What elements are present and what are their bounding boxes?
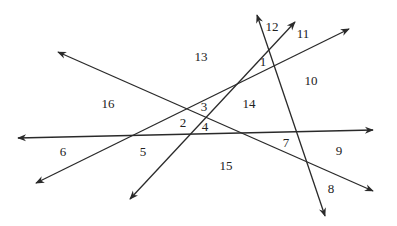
diagram-canvas: 12345678910111213141516 bbox=[0, 0, 397, 226]
line-a-double-arrow bbox=[18, 130, 373, 138]
region-label-15: 15 bbox=[220, 158, 233, 173]
region-label-5: 5 bbox=[140, 144, 147, 159]
lines-group bbox=[18, 15, 373, 216]
region-label-8: 8 bbox=[328, 181, 335, 196]
intersecting-lines-diagram: 12345678910111213141516 bbox=[0, 0, 397, 226]
region-label-11: 11 bbox=[297, 26, 310, 41]
region-label-1: 1 bbox=[260, 54, 267, 69]
region-label-10: 10 bbox=[305, 73, 318, 88]
region-label-3: 3 bbox=[201, 99, 208, 114]
region-label-7: 7 bbox=[283, 135, 290, 150]
region-label-9: 9 bbox=[336, 143, 343, 158]
region-labels-group: 12345678910111213141516 bbox=[60, 19, 343, 196]
region-label-6: 6 bbox=[60, 144, 67, 159]
region-label-14: 14 bbox=[243, 96, 257, 111]
region-label-12: 12 bbox=[266, 19, 279, 34]
line-c-double-arrow bbox=[58, 52, 373, 191]
region-label-4: 4 bbox=[202, 119, 209, 134]
region-label-16: 16 bbox=[102, 96, 116, 111]
line-e-double-arrow bbox=[130, 22, 295, 199]
region-label-13: 13 bbox=[195, 49, 208, 64]
region-label-2: 2 bbox=[180, 115, 187, 130]
